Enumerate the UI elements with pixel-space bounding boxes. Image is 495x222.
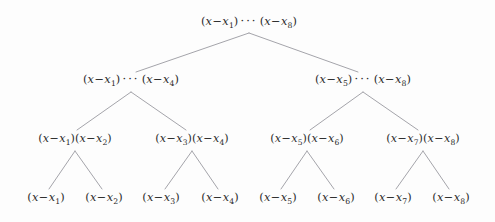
node-expression: (x−x7)(x−x8) (386, 132, 459, 145)
tree-leaf-8: (x−x8) (432, 192, 469, 205)
tree-node-pair-12: (x−x1)(x−x2) (38, 133, 111, 146)
tree-edge-n3-n8 (75, 151, 102, 189)
node-expression: (x−x5) (259, 190, 296, 204)
node-expression: (x−x3)(x−x4) (155, 132, 228, 145)
node-expression: (x−x2) (85, 190, 122, 204)
product-tree-figure: (x−x1)···(x−x8) (x−x1)···(x−x4) (x−x5)··… (0, 0, 495, 222)
tree-edge-n5-n11 (281, 151, 307, 189)
node-expression: (x−x5)···(x−x8) (315, 72, 411, 86)
tree-node-left-half: (x−x1)···(x−x4) (83, 74, 179, 87)
tree-edge-n4-n10 (192, 151, 218, 189)
tree-node-right-half: (x−x5)···(x−x8) (315, 74, 411, 87)
node-expression: (x−x3) (142, 190, 179, 204)
tree-edge-n6-n13 (396, 151, 423, 189)
tree-edge-n0-n1 (136, 33, 249, 72)
tree-leaf-2: (x−x2) (85, 192, 122, 205)
tree-edge-n2-n5 (310, 92, 363, 130)
tree-edge-n1-n4 (131, 92, 186, 130)
tree-edge-n2-n6 (363, 92, 418, 130)
node-expression: (x−x1)(x−x2) (38, 132, 111, 145)
node-expression: (x−x6) (317, 190, 354, 204)
tree-leaf-3: (x−x3) (142, 192, 179, 205)
tree-edge-n0-n2 (249, 33, 358, 72)
tree-node-pair-56: (x−x5)(x−x6) (270, 133, 343, 146)
tree-edge-n1-n3 (77, 92, 131, 130)
node-expression: (x−x4) (201, 190, 238, 204)
tree-leaf-4: (x−x4) (201, 192, 238, 205)
tree-leaf-1: (x−x1) (27, 192, 64, 205)
tree-node-pair-78: (x−x7)(x−x8) (386, 133, 459, 146)
node-expression: (x−x7) (374, 190, 411, 204)
tree-leaf-7: (x−x7) (374, 192, 411, 205)
tree-leaf-5: (x−x5) (259, 192, 296, 205)
tree-edge-n6-n14 (423, 151, 449, 189)
node-expression: (x−x8) (432, 190, 469, 204)
tree-node-root: (x−x1)···(x−x8) (201, 16, 297, 29)
node-expression: (x−x1)···(x−x4) (83, 72, 179, 86)
tree-node-pair-34: (x−x3)(x−x4) (155, 133, 228, 146)
tree-edge-n3-n7 (49, 151, 75, 189)
node-expression: (x−x1) (27, 190, 64, 204)
tree-edge-n4-n9 (165, 151, 192, 189)
node-expression: (x−x5)(x−x6) (270, 132, 343, 145)
tree-leaf-6: (x−x6) (317, 192, 354, 205)
node-expression: (x−x1)···(x−x8) (201, 14, 297, 28)
tree-edges (49, 33, 449, 189)
tree-edge-n5-n12 (307, 151, 334, 189)
tree-edge-layer (0, 0, 495, 222)
